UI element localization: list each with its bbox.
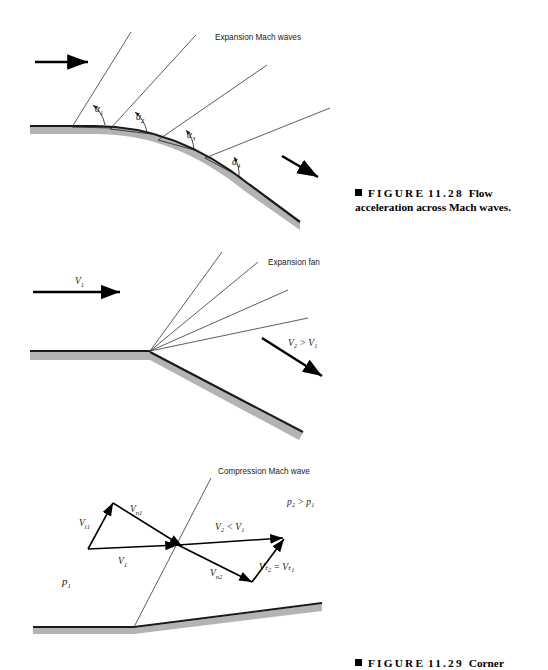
- figure-11-29-drawing: V1 V₂ > V₁ Expansion fan: [0, 240, 548, 460]
- caption-label: FIGURE: [368, 187, 425, 199]
- expansion-mach-waves-label: Expansion Mach waves: [215, 33, 301, 42]
- mach-wave-3: [158, 65, 267, 140]
- wall-upstream-fill: [33, 628, 134, 634]
- angle-label-alpha-3: α3: [187, 130, 196, 142]
- fan-ray-4: [150, 318, 308, 351]
- figure-11-30: Compression Mach wave Vt1 Vn1 V1 V₂ < V₁…: [0, 460, 548, 670]
- pressure-label-p1: p1: [61, 575, 71, 589]
- figure-11-30-drawing: Compression Mach wave Vt1 Vn1 V1 V₂ < V₁…: [0, 460, 548, 670]
- vector-V2: [178, 538, 283, 545]
- compression-mach-wave-line: [134, 478, 211, 627]
- outlet-flow-arrow: [282, 156, 318, 177]
- caption-title: Flow: [469, 187, 493, 199]
- wall-ramp-edge: [134, 603, 322, 627]
- caption-text: acceleration across Mach waves.: [355, 201, 511, 213]
- mach-wave-2: [110, 35, 196, 129]
- inlet-velocity-label: V1: [75, 276, 84, 288]
- mach-wave-4: [205, 108, 330, 158]
- vector-label-Vt2-equality: Vₜ₂ = Vₜ₁: [259, 562, 294, 572]
- vector-label-V1: V1: [118, 556, 127, 568]
- vector-Vt1: [88, 503, 113, 549]
- vector-label-Vn2: Vn2: [210, 568, 223, 580]
- angle-label-alpha-4: α4: [232, 157, 241, 169]
- compression-mach-wave-label: Compression Mach wave: [218, 467, 310, 476]
- caption-number: 11.28: [428, 187, 464, 199]
- pressure-label-p2-comparison: p₂ > p₁: [286, 497, 314, 507]
- vector-label-Vn1: Vn1: [130, 504, 142, 516]
- caption-bullet-icon: [355, 189, 362, 196]
- outlet-velocity-label: V₂ > V₁: [288, 338, 317, 348]
- fan-ray-1: [150, 252, 222, 351]
- vector-Vt2: [252, 539, 284, 582]
- vector-Vn1: [113, 503, 182, 546]
- figure-11-28: α1 α2 α3 α4 Expansion Mach waves FIGURE …: [0, 0, 548, 240]
- fan-ray-2: [150, 262, 258, 351]
- wall-downstream-edge: [150, 352, 303, 432]
- figure-11-28-caption: FIGURE 11.28Flow acceleration across Mac…: [355, 186, 548, 214]
- wall-upstream-fill: [30, 352, 150, 360]
- figure-11-29: V1 V₂ > V₁ Expansion fan FIGURE 11.29Cor…: [0, 240, 548, 460]
- wall-ramp-fill: [134, 604, 322, 634]
- expansion-fan-label: Expansion fan: [268, 258, 320, 267]
- angle-label-alpha-1: α1: [95, 104, 103, 116]
- figure-page: α1 α2 α3 α4 Expansion Mach waves FIGURE …: [0, 0, 548, 670]
- angle-label-alpha-2: α2: [136, 112, 145, 124]
- vector-V1: [88, 545, 178, 549]
- vector-label-Vt1: Vt1: [79, 518, 90, 530]
- vector-label-V2-comparison: V₂ < V₁: [215, 522, 244, 532]
